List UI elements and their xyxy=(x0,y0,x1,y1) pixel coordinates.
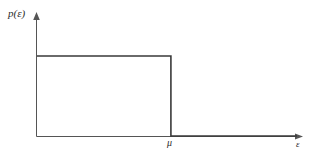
curve-path xyxy=(37,56,297,136)
step-function-curve xyxy=(37,56,297,136)
step-function-plot xyxy=(0,0,313,156)
figure-container: p(ε) ε μ xyxy=(0,0,313,156)
y-axis xyxy=(33,12,40,137)
y-axis-arrowhead-icon xyxy=(33,12,40,20)
y-axis-label: p(ε) xyxy=(8,8,25,19)
x-axis-label: ε xyxy=(296,140,300,149)
x-tick-label-mu: μ xyxy=(167,138,172,148)
